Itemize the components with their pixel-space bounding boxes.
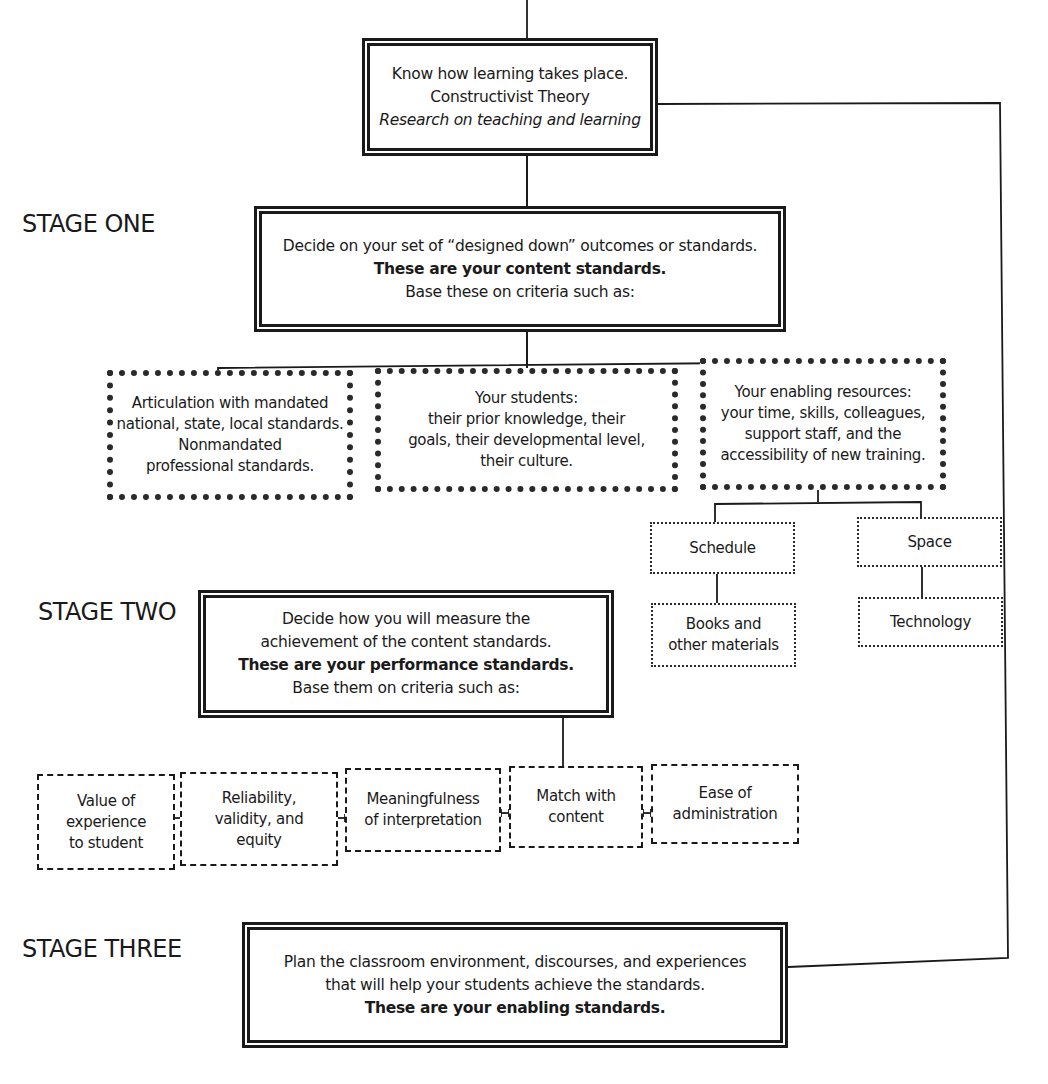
criterion-value-box: Value of experience to student xyxy=(37,774,175,870)
criteria-text: professional standards. xyxy=(146,456,314,477)
stage-two-label: STAGE TWO xyxy=(38,598,176,626)
criteria-text: national, state, local standards. xyxy=(117,414,344,435)
criterion-text: of interpretation xyxy=(364,810,481,831)
books-text: Books and xyxy=(686,614,761,635)
criterion-reliability-box: Reliability, validity, and equity xyxy=(180,772,338,866)
criterion-ease-box: Ease of administration xyxy=(651,764,799,844)
criteria-text: Your enabling resources: xyxy=(735,382,912,403)
criterion-text: experience xyxy=(66,812,146,833)
enabling-line1: Plan the classroom environment, discours… xyxy=(284,951,747,974)
criterion-match-box: Match with content xyxy=(509,766,643,848)
performance-standards-box: Decide how you will measure the achievem… xyxy=(198,590,614,718)
content-standards-line3: Base these on criteria such as: xyxy=(405,281,634,304)
criterion-text: Match with xyxy=(536,786,615,807)
criterion-meaningfulness-box: Meaningfulness of interpretation xyxy=(345,768,501,852)
learning-theory-line3: Research on teaching and learning xyxy=(379,109,640,132)
stage-three-label: STAGE THREE xyxy=(22,935,182,963)
space-text: Space xyxy=(907,532,951,553)
content-standards-box: Decide on your set of “designed down” ou… xyxy=(254,206,786,332)
criterion-text: administration xyxy=(673,804,778,825)
technology-text: Technology xyxy=(890,612,971,633)
criteria-standards-box: Articulation with mandated national, sta… xyxy=(107,370,353,500)
space-box: Space xyxy=(857,517,1002,567)
criteria-text: Your students: xyxy=(475,388,578,409)
stage-one-label: STAGE ONE xyxy=(22,210,155,238)
criterion-text: Meaningfulness xyxy=(366,789,479,810)
content-standards-line2: These are your content standards. xyxy=(374,258,666,281)
technology-box: Technology xyxy=(858,597,1003,647)
performance-line4: Base them on criteria such as: xyxy=(292,677,519,700)
criterion-text: Value of xyxy=(77,791,135,812)
criteria-text: their culture. xyxy=(480,451,573,472)
learning-theory-line1: Know how learning takes place. xyxy=(392,63,628,86)
schedule-box: Schedule xyxy=(650,522,795,574)
criterion-text: validity, and xyxy=(215,809,304,830)
schedule-text: Schedule xyxy=(689,538,756,559)
criteria-resources-box: Your enabling resources: your time, skil… xyxy=(700,358,946,490)
learning-theory-line2: Constructivist Theory xyxy=(430,86,590,109)
criteria-text: their prior knowledge, their xyxy=(428,409,625,430)
criterion-text: equity xyxy=(236,830,281,851)
enabling-line3: These are your enabling standards. xyxy=(365,997,666,1020)
performance-line3: These are your performance standards. xyxy=(238,654,574,677)
criteria-text: accessibility of new training. xyxy=(720,445,925,466)
criterion-text: Reliability, xyxy=(222,788,296,809)
learning-theory-box: Know how learning takes place. Construct… xyxy=(362,38,658,156)
criteria-students-box: Your students: their prior knowledge, th… xyxy=(375,368,678,492)
criterion-text: Ease of xyxy=(699,783,752,804)
criteria-text: your time, skills, colleagues, xyxy=(721,403,925,424)
criteria-text: goals, their developmental level, xyxy=(408,430,645,451)
books-text: other materials xyxy=(668,635,779,656)
performance-line1: Decide how you will measure the xyxy=(282,608,530,631)
enabling-line2: that will help your students achieve the… xyxy=(325,974,705,997)
criteria-text: support staff, and the xyxy=(745,424,901,445)
criteria-text: Nonmandated xyxy=(178,435,281,456)
performance-line2: achievement of the content standards. xyxy=(260,631,551,654)
criterion-text: to student xyxy=(69,833,143,854)
books-box: Books and other materials xyxy=(651,603,796,667)
enabling-standards-box: Plan the classroom environment, discours… xyxy=(242,922,788,1048)
criterion-text: content xyxy=(548,807,603,828)
content-standards-line1: Decide on your set of “designed down” ou… xyxy=(283,235,757,258)
criteria-text: Articulation with mandated xyxy=(132,393,329,414)
